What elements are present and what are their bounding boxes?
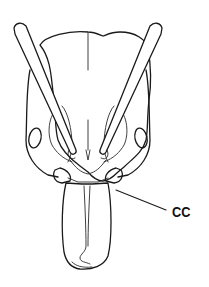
mandible-base-left: [54, 168, 71, 183]
antenna-left: [14, 23, 76, 154]
antenna-right: [100, 23, 162, 154]
label-cc: CC: [172, 203, 190, 220]
compound-eye-left: [27, 127, 43, 149]
label-leader-line: [116, 190, 166, 210]
clypeal-median: [86, 150, 90, 160]
insect-head-diagram: CC: [0, 0, 209, 287]
labrum-outline: [62, 183, 111, 269]
